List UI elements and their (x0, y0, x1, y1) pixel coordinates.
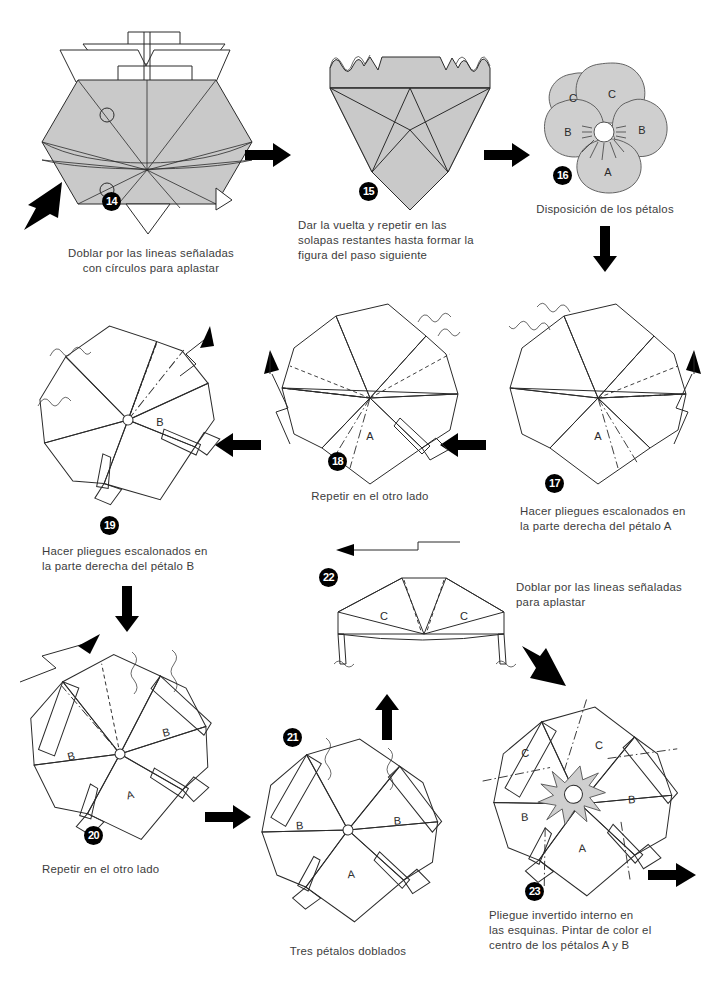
step-16-figure: C C B B A (528, 40, 678, 200)
svg-text:B: B (156, 416, 163, 428)
svg-text:B: B (393, 814, 401, 826)
step-15-badge: 15 (359, 182, 378, 201)
svg-text:B: B (161, 725, 171, 738)
step-19-badge: 19 (100, 516, 119, 535)
svg-text:A: A (347, 868, 356, 881)
step-16-badge: 16 (553, 166, 572, 185)
arrow-19-to-20 (114, 586, 140, 634)
step-21-caption: Tres pétalos doblados (253, 944, 443, 959)
svg-text:B: B (564, 126, 571, 138)
step-21-badge: 21 (283, 728, 302, 747)
svg-text:B: B (638, 124, 645, 136)
svg-text:B: B (628, 793, 636, 805)
svg-text:C: C (569, 92, 577, 104)
svg-text:A: A (594, 430, 602, 442)
svg-text:B: B (295, 819, 303, 831)
step-23-caption: Pliegue invertido interno en las esquina… (489, 908, 699, 954)
arrow-16-to-17 (592, 226, 618, 274)
svg-text:A: A (604, 166, 612, 178)
arrow-22-to-23 (518, 644, 578, 696)
step-22-figure: C C (314, 538, 534, 668)
step-22-badge: 22 (319, 568, 338, 587)
svg-text:C: C (460, 610, 468, 622)
origami-instructions-page: 14 Doblar por las lineas señaladas con c… (0, 0, 723, 1007)
svg-text:B: B (521, 811, 529, 823)
svg-text:C: C (521, 747, 530, 759)
step-20-figure: B B A (20, 644, 230, 854)
step-15-figure (298, 30, 508, 210)
svg-text:B: B (66, 749, 76, 762)
step-17-figure: A (498, 288, 698, 488)
arrow-23-to-next (648, 862, 700, 888)
step-19-caption: Hacer pliegues escalonados en la parte d… (42, 544, 242, 574)
arrow-20-to-21 (205, 804, 253, 830)
step-21-figure: B B A (248, 730, 458, 930)
step-23-badge: 23 (525, 882, 544, 901)
step-17-badge: 17 (545, 474, 564, 493)
step-14-badge: 14 (102, 192, 121, 211)
step-17-caption: Hacer pliegues escalonados en la parte d… (520, 504, 720, 534)
step-18-caption: Repetir en el otro lado (280, 489, 460, 504)
svg-text:C: C (595, 739, 604, 751)
arrow-21-to-22 (374, 694, 400, 742)
svg-text:A: A (125, 788, 136, 802)
step-18-badge: 18 (328, 452, 347, 471)
svg-text:A: A (578, 842, 587, 854)
step-14-caption: Doblar por las lineas señaladas con círc… (46, 246, 256, 276)
step-15-caption: Dar la vuelta y repetir en las solapas r… (298, 218, 513, 264)
svg-text:A: A (366, 430, 374, 442)
step-16-caption: Disposición de los pétalos (510, 202, 700, 217)
step-22-caption: Doblar por las lineas señaladas para apl… (516, 580, 716, 610)
step-18-figure: A (270, 288, 470, 488)
step-20-caption: Repetir en el otro lado (42, 862, 242, 877)
svg-text:C: C (380, 610, 388, 622)
arrow-14-to-15 (245, 142, 293, 168)
arrow-entry-into-14 (22, 178, 86, 232)
step-20-badge: 20 (84, 826, 103, 845)
svg-text:C: C (608, 88, 616, 100)
arrow-15-to-16 (484, 142, 532, 168)
step-19-figure: B (28, 320, 228, 520)
